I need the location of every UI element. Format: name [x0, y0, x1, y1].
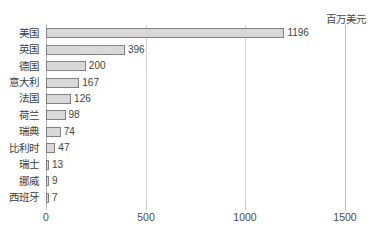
bar-row: 200	[46, 58, 346, 74]
category-label: 德国	[0, 58, 42, 74]
bar-row: 1196	[46, 25, 346, 41]
x-tick	[146, 206, 147, 210]
bar	[46, 61, 86, 71]
bar	[46, 193, 49, 203]
category-label: 美国	[0, 25, 42, 41]
bar-row: 126	[46, 91, 346, 107]
unit-label: 百万美元	[326, 13, 366, 25]
bar-value-label: 1196	[287, 28, 309, 38]
category-label: 比利时	[0, 140, 42, 156]
x-tick-label: 1000	[233, 211, 256, 223]
bar-row: 13	[46, 157, 346, 173]
bar-value-label: 9	[52, 176, 58, 186]
category-label: 法国	[0, 91, 42, 107]
x-tick	[245, 206, 246, 210]
category-label: 西班牙	[0, 189, 42, 205]
bar	[46, 45, 125, 55]
bar-rows: 11963962001671269874471397	[46, 25, 346, 206]
bar	[46, 176, 49, 186]
bar-row: 7	[46, 189, 346, 205]
category-label: 英国	[0, 41, 42, 57]
bar	[46, 28, 284, 38]
category-label: 荷兰	[0, 107, 42, 123]
bar-row: 47	[46, 140, 346, 156]
bar-row: 98	[46, 107, 346, 123]
bar	[46, 78, 79, 88]
x-tick	[46, 206, 47, 210]
plot-area: 11963962001671269874471397	[46, 25, 346, 206]
bar-value-label: 7	[52, 193, 58, 203]
bar-value-label: 98	[69, 110, 80, 120]
x-tick-label: 1500	[333, 211, 356, 223]
bar-value-label: 396	[128, 45, 145, 55]
bar	[46, 160, 49, 170]
x-tick	[345, 206, 346, 210]
category-label: 挪威	[0, 173, 42, 189]
bar-row: 396	[46, 41, 346, 57]
bar-value-label: 167	[82, 78, 99, 88]
bar-row: 167	[46, 74, 346, 90]
bar-row: 9	[46, 173, 346, 189]
clipped-title	[150, 0, 310, 2]
bar	[46, 143, 55, 153]
category-label: 瑞士	[0, 157, 42, 173]
bar-value-label: 74	[64, 127, 75, 137]
x-tick-label: 500	[137, 211, 155, 223]
bar-value-label: 126	[74, 94, 91, 104]
bar-row: 74	[46, 124, 346, 140]
category-axis: 美国英国德国意大利法国荷兰瑞典比利时瑞士挪威西班牙	[0, 25, 42, 206]
bar-value-label: 47	[58, 143, 69, 153]
category-label: 意大利	[0, 74, 42, 90]
bar	[46, 127, 61, 137]
bar	[46, 110, 66, 120]
bar-value-label: 13	[52, 160, 63, 170]
bar-chart: 百万美元 美国英国德国意大利法国荷兰瑞典比利时瑞士挪威西班牙 119639620…	[0, 0, 372, 233]
bar	[46, 94, 71, 104]
bar-value-label: 200	[89, 61, 106, 71]
x-tick-label: 0	[43, 211, 49, 223]
category-label: 瑞典	[0, 124, 42, 140]
